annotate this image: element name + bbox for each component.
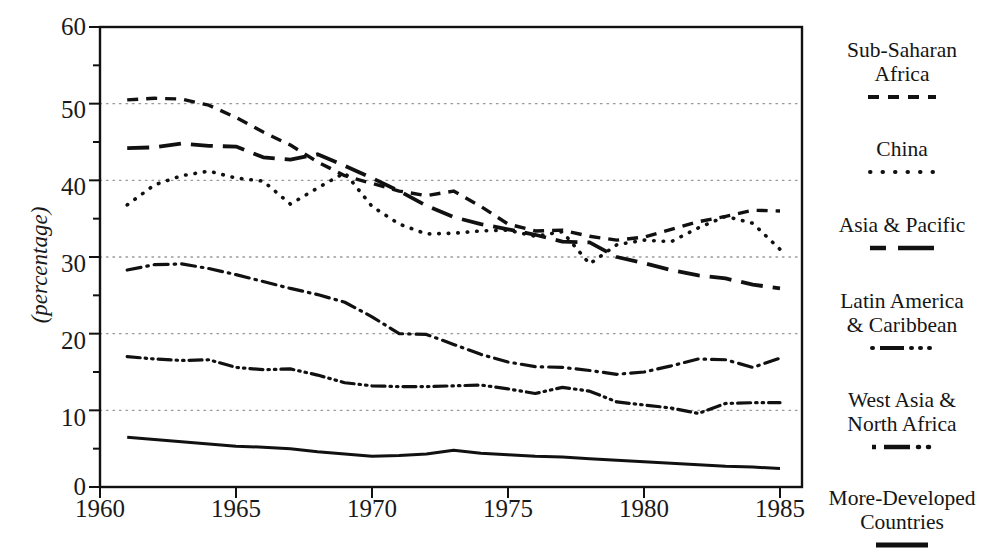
legend-item-west-asia-north-africa[interactable]: West Asia & North Africa xyxy=(815,388,989,454)
series-line-sub-saharan-africa xyxy=(127,98,780,240)
series-line-china xyxy=(127,171,780,264)
y-axis-title: (percentage) xyxy=(27,165,53,365)
y-tick-50: 50 xyxy=(34,97,86,123)
legend-item-more-developed-countries[interactable]: More-Developed Countries xyxy=(815,486,989,552)
x-tick-1975: 1975 xyxy=(453,496,563,526)
legend-label: More-Developed Countries xyxy=(815,486,989,534)
x-tick-1980: 1980 xyxy=(589,496,699,526)
y-tick-label: 50 xyxy=(34,97,86,122)
x-tick-1965: 1965 xyxy=(181,496,291,526)
chart-svg xyxy=(0,0,820,553)
legend-label: Asia & Pacific xyxy=(815,213,989,237)
solid-swatch-icon xyxy=(864,538,940,552)
legend-item-latin-america-caribbean[interactable]: Latin America & Caribbean xyxy=(815,289,989,355)
plot-area: 60 50 40 30 20 10 0 1960 1965 1970 1975 … xyxy=(0,0,820,553)
dashdot-swatch-icon xyxy=(864,341,940,355)
y-tick-60: 60 xyxy=(34,14,86,40)
legend-label: West Asia & North Africa xyxy=(815,388,989,436)
chart-page: 60 50 40 30 20 10 0 1960 1965 1970 1975 … xyxy=(0,0,989,553)
chart-legend: Sub-Saharan Africa China Asia & Pacific … xyxy=(815,20,989,540)
series-line-latin-america-caribbean xyxy=(127,264,780,374)
legend-label: Latin America & Caribbean xyxy=(815,289,989,337)
legend-label: Sub-Saharan Africa xyxy=(815,38,989,86)
y-tick-label: 10 xyxy=(34,405,86,430)
legend-label: China xyxy=(815,137,989,161)
legend-item-china[interactable]: China xyxy=(815,137,989,179)
series-line-west-asia-north-africa xyxy=(127,357,780,414)
x-tick-1970: 1970 xyxy=(317,496,427,526)
longdash-swatch-icon xyxy=(864,241,940,255)
legend-item-sub-saharan-africa[interactable]: Sub-Saharan Africa xyxy=(815,38,989,104)
x-tick-1960: 1960 xyxy=(45,496,155,526)
dashdotdot-swatch-icon xyxy=(864,440,940,454)
y-tick-10: 10 xyxy=(34,405,86,431)
legend-item-asia-pacific[interactable]: Asia & Pacific xyxy=(815,213,989,255)
series-line-more-developed-countries xyxy=(127,437,780,468)
dotted-swatch-icon xyxy=(864,165,940,179)
dashed-swatch-icon xyxy=(864,90,940,104)
series-line-asia-pacific xyxy=(127,144,780,289)
y-tick-label: 60 xyxy=(34,14,86,39)
